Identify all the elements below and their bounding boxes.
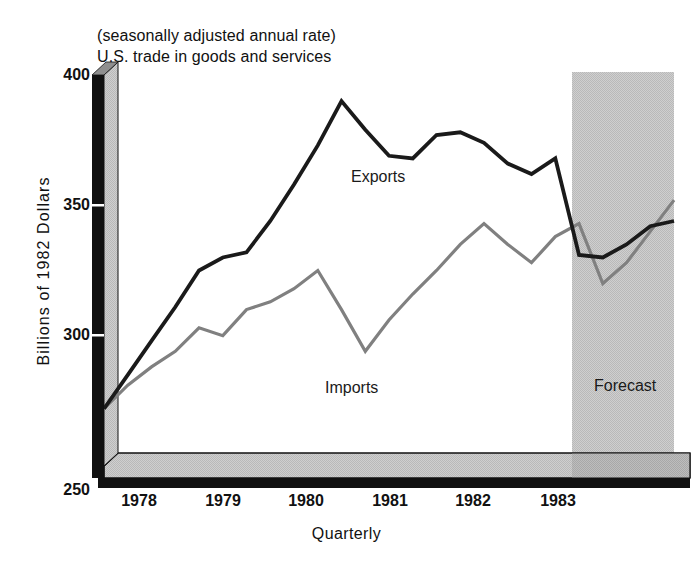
y-axis-bar bbox=[92, 62, 118, 478]
plot-canvas bbox=[0, 0, 693, 562]
exports-label: Exports bbox=[351, 168, 405, 186]
axis-floor bbox=[98, 453, 690, 488]
forecast-label: Forecast bbox=[594, 377, 656, 395]
chart-figure: (seasonally adjusted annual rate) U.S. t… bbox=[0, 0, 693, 562]
imports-label: Imports bbox=[325, 379, 378, 397]
forecast-band bbox=[572, 72, 674, 466]
